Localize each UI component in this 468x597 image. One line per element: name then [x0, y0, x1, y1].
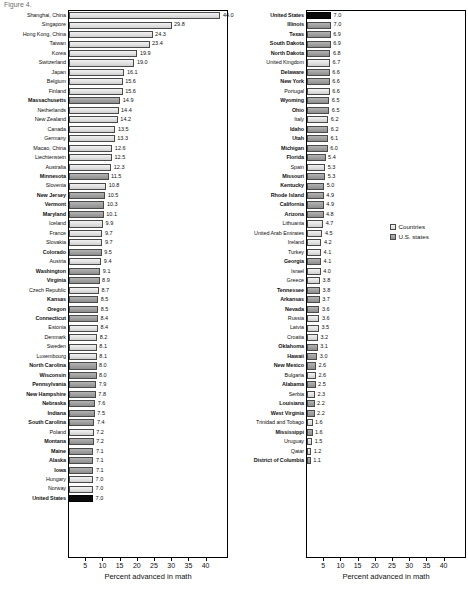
bar-rows-left: Shanghai, China44.0Singapore29.8Hong Kon…: [69, 11, 227, 557]
bar-value: 6.5: [332, 106, 340, 115]
bar-row: Denmark8.2: [69, 333, 227, 342]
bar-state: [307, 41, 331, 48]
bar-country: [307, 59, 330, 66]
bar-label: United Kingdom: [266, 58, 304, 67]
bar-state: [307, 344, 318, 351]
bar-value: 4.2: [324, 238, 332, 247]
bar-label: Italy: [294, 115, 304, 124]
bar-row: Illinois7.0: [307, 20, 465, 29]
bar-country: [69, 69, 124, 76]
bar-label: Alabama: [282, 380, 304, 389]
bar-value: 1.5: [315, 437, 323, 446]
bar-label: Slovenia: [46, 181, 66, 190]
bar-state: [69, 400, 95, 407]
bar-row: North Carolina8.0: [69, 361, 227, 370]
bar-value: 6.1: [330, 134, 338, 143]
bar-label: Macao, China: [33, 144, 66, 153]
bar-label: Spain: [290, 163, 304, 172]
bar-country: [307, 372, 316, 379]
bar-row: Shanghai, China44.0: [69, 11, 227, 20]
bar-value: 9.4: [104, 257, 112, 266]
bar-state: [307, 145, 328, 152]
bar-state: [307, 457, 311, 464]
x-axis-title-left: Percent advanced in math: [68, 572, 228, 581]
bar-state: [307, 22, 331, 29]
bar-label: Luxembourg: [37, 352, 66, 361]
bar-country: [69, 239, 102, 246]
bar-row: Iowa7.1: [69, 466, 227, 475]
bar-value: 12.3: [114, 163, 125, 172]
bar-label: South Dakota: [270, 39, 304, 48]
bar-value: 9.1: [103, 267, 111, 276]
bar-row: Kentucky5.0: [307, 181, 465, 190]
bar-value: 6.0: [330, 144, 338, 153]
legend: CountriesU.S. states: [390, 222, 429, 242]
bar-label: Oregon: [47, 305, 66, 314]
bar-row: New Hampshire7.8: [69, 390, 227, 399]
bar-value: 1.6: [315, 418, 323, 427]
bar-row: Estonia8.4: [69, 323, 227, 332]
chart-panel-right: United States7.0Illinois7.0Texas6.9South…: [234, 10, 468, 588]
plot-area-right: United States7.0Illinois7.0Texas6.9South…: [306, 10, 466, 558]
x-axis-title-right: Percent advanced in math: [306, 572, 466, 581]
bar-label: South Carolina: [28, 418, 66, 427]
bar-state: [69, 315, 98, 322]
bar-value: 9.5: [104, 248, 112, 257]
bar-value: 7.4: [97, 418, 105, 427]
bar-country: [307, 239, 321, 246]
bar-row: Greece3.8: [307, 276, 465, 285]
bar-value: 7.1: [96, 456, 104, 465]
bar-value: 14.2: [120, 115, 131, 124]
bar-label: Hong Kong, China: [23, 30, 66, 39]
bar-label: Michigan: [281, 144, 304, 153]
bar-value: 14.4: [121, 106, 132, 115]
bar-value: 2.2: [317, 409, 325, 418]
bar-label: Hawaii: [287, 352, 304, 361]
bar-label: Poland: [50, 428, 67, 437]
bar-value: 8.5: [101, 305, 109, 314]
bar-country: [69, 78, 123, 85]
bar-country: [69, 486, 93, 493]
bar-label: Netherlands: [37, 106, 66, 115]
bar-row: Georgia4.1: [307, 257, 465, 266]
bar-state: [307, 173, 325, 180]
bar-row: Trinidad and Tobago1.6: [307, 418, 465, 427]
bar-row: Arkansas3.7: [307, 295, 465, 304]
bar-value: 7.0: [96, 475, 104, 484]
bar-label: Texas: [289, 30, 304, 39]
bar-label: Korea: [52, 49, 66, 58]
bar-value: 13.5: [118, 125, 129, 134]
bar-value: 8.1: [99, 342, 107, 351]
bar-label: Nevada: [285, 305, 304, 314]
bar-label: Virginia: [47, 276, 66, 285]
bar-label: West Virginia: [271, 409, 304, 418]
bar-label: Finland: [49, 87, 66, 96]
bar-country: [69, 12, 220, 19]
bar-row: Italy6.2: [307, 115, 465, 124]
bar-state: [69, 362, 97, 369]
bar-label: Wisconsin: [40, 371, 66, 380]
bar-row: Maine7.1: [69, 447, 227, 456]
bar-label: Illinois: [287, 20, 304, 29]
bar-value: 4.1: [324, 248, 332, 257]
bar-value: 7.8: [98, 390, 106, 399]
bar-row: Russia3.6: [307, 314, 465, 323]
bar-label: United States: [32, 494, 66, 503]
figure-title: Figure 4.: [4, 0, 184, 9]
bar-country: [307, 230, 322, 237]
bar-label: Vermont: [45, 200, 66, 209]
bar-country: [69, 41, 150, 48]
bar-label: New Zealand: [35, 115, 66, 124]
bar-label: Belgium: [47, 77, 66, 86]
bar-label: Lithuania: [283, 219, 304, 228]
axis-tick-label: 5: [321, 562, 325, 569]
bar-row: Pennsylvania7.9: [69, 380, 227, 389]
bar-value: 5.4: [328, 153, 336, 162]
bar-country: [69, 22, 172, 29]
bar-label: Massachusetts: [28, 96, 66, 105]
bar-value: 7.1: [96, 466, 104, 475]
bar-label: Nebraska: [42, 399, 66, 408]
bar-label: Idaho: [290, 125, 304, 134]
bar-row: Ireland4.2: [307, 238, 465, 247]
bar-value: 7.2: [96, 437, 104, 446]
